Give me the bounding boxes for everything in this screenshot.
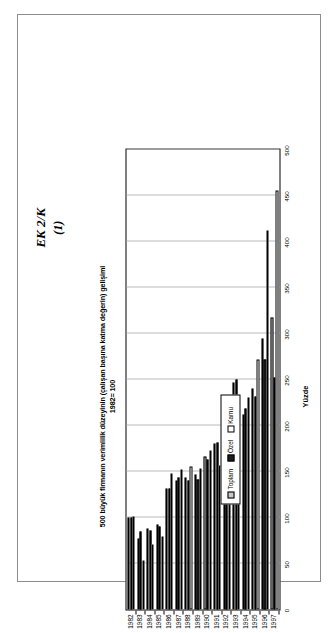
chart-container: 500 büyük firmanın verimlilik düzeyinin … (96, 139, 311, 633)
gridline (127, 149, 280, 150)
value-tick-label: 200 (283, 421, 290, 431)
category-tick-label: 1993 (232, 615, 239, 629)
gridline (127, 287, 280, 288)
value-tick-label: 0 (283, 609, 290, 612)
plot-area (126, 149, 281, 611)
legend-item-kamu[interactable]: Kamu (224, 407, 236, 433)
category-tick-label: 1990 (203, 615, 210, 629)
legend-item-özel[interactable]: Özel (224, 440, 236, 462)
header-code: EK 2/K (32, 173, 50, 283)
bar-kamu-1983 (142, 561, 144, 610)
value-tick-label: 250 (283, 375, 290, 385)
bar-kamu-1982 (133, 517, 135, 610)
category-axis: 1982198319841985198619871988198919901991… (126, 611, 281, 633)
category-tick-mark (279, 611, 280, 615)
value-axis-label: Yüzde (301, 139, 310, 633)
legend-item-toplam[interactable]: Toplam (224, 469, 236, 499)
chart-title: 500 büyük firmanın verimlilik düzeyinin … (98, 139, 119, 633)
bar-kamu-1988 (190, 467, 192, 610)
gridline (127, 333, 280, 334)
page-header: EK 2/K (1) (32, 173, 66, 283)
bar-kamu-1995 (257, 359, 259, 609)
category-tick-label: 1988 (184, 615, 191, 629)
legend-swatch-kamu (227, 426, 234, 433)
category-tick-label: 1982 (127, 615, 134, 629)
category-tick-label: 1995 (251, 615, 258, 629)
category-tick-label: 1986 (165, 615, 172, 629)
chart-title-line1: 500 büyük firmanın verimlilik düzeyinin … (98, 139, 108, 633)
bar-kamu-1996 (266, 230, 268, 609)
page-frame: EK 2/K (1) 500 büyük firmanın verimlilik… (17, 14, 321, 582)
value-tick-label: 300 (283, 329, 290, 339)
legend-label: Kamu (226, 407, 233, 424)
bar-kamu-1986 (171, 473, 173, 609)
value-tick-label: 350 (283, 283, 290, 293)
category-tick-label: 1983 (136, 615, 143, 629)
value-tick-label: 100 (283, 513, 290, 523)
gridline (127, 241, 280, 242)
legend-label: Toplam (226, 469, 233, 490)
category-tick-label: 1984 (146, 615, 153, 629)
bar-kamu-1997 (276, 191, 278, 610)
bar-kamu-1994 (247, 398, 249, 610)
category-tick-label: 1987 (175, 615, 182, 629)
category-tick-label: 1994 (242, 615, 249, 629)
value-tick-label: 400 (283, 237, 290, 247)
bar-kamu-1990 (209, 450, 211, 609)
legend-swatch-özel (227, 455, 234, 462)
category-tick-label: 1992 (222, 615, 229, 629)
chart-title-line2: 1982= 100 (108, 139, 118, 633)
legend-label: Özel (226, 440, 233, 453)
value-tick-label: 500 (283, 145, 290, 155)
bar-kamu-1987 (180, 470, 182, 610)
value-tick-label: 450 (283, 191, 290, 201)
category-tick-label: 1997 (270, 615, 277, 629)
bar-kamu-1985 (161, 537, 163, 610)
category-tick-label: 1991 (213, 615, 220, 629)
legend-swatch-toplam (227, 492, 234, 499)
value-tick-label: 150 (283, 467, 290, 477)
chart-legend[interactable]: ToplamÖzelKamu (220, 394, 240, 504)
gridline (127, 195, 280, 196)
bar-kamu-1984 (152, 544, 154, 609)
category-tick-label: 1989 (194, 615, 201, 629)
category-tick-label: 1996 (261, 615, 268, 629)
header-number: (1) (50, 173, 66, 283)
value-tick-label: 50 (283, 561, 290, 568)
category-tick-label: 1985 (155, 615, 162, 629)
bar-kamu-1989 (199, 469, 201, 610)
